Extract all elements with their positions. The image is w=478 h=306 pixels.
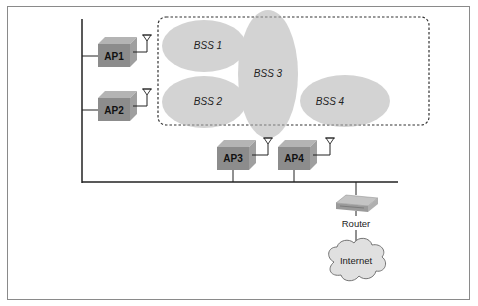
antenna-icon [142,89,152,95]
bss-1-label: BSS 1 [194,40,222,51]
ap3-device: AP3 [217,138,273,170]
antenna-icon [142,35,152,41]
internet-label: Internet [340,255,373,266]
network-diagram: BSS 1 BSS 2 BSS 3 BSS 4 AP1 AP2 AP3 AP [0,0,478,306]
router-device [336,195,378,216]
ap2-label: AP2 [104,105,124,116]
bss-2-label: BSS 2 [194,96,223,107]
ap2-device: AP2 [98,89,152,121]
ap1-device: AP1 [98,35,152,67]
ap4-device: AP4 [278,138,335,170]
bss-3-label: BSS 3 [254,68,283,79]
antenna-icon [325,138,335,144]
router-label: Router [342,218,371,229]
bss-4-label: BSS 4 [316,96,345,107]
bss-4-area [300,75,390,127]
ap3-label: AP3 [223,153,243,164]
ap1-label: AP1 [104,51,124,62]
ap4-label: AP4 [284,153,304,164]
antenna-icon [263,138,273,144]
